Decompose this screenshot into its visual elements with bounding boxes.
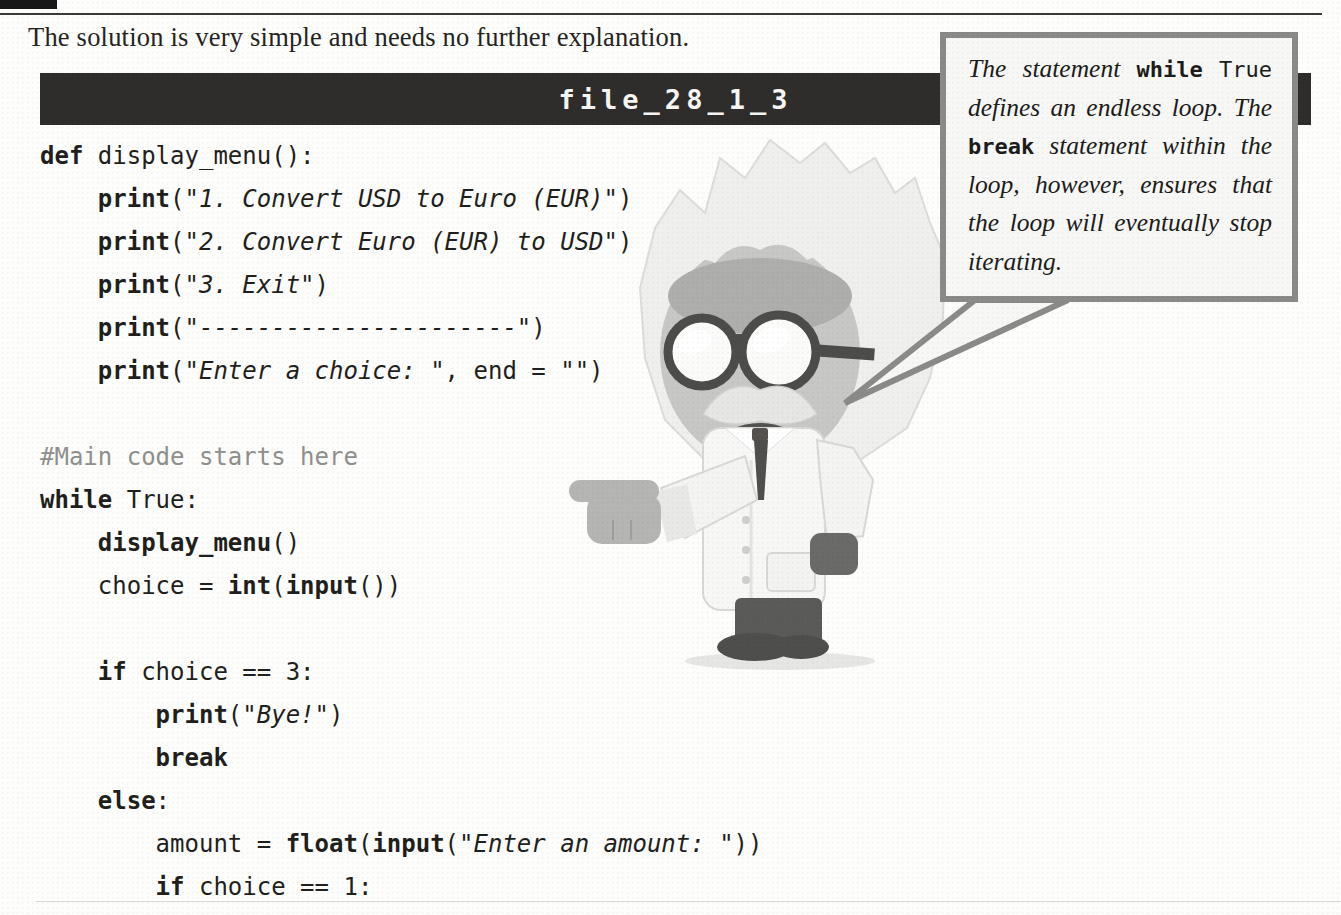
code-segment: :: [156, 787, 170, 815]
code-line: if choice == 1:: [40, 866, 763, 909]
code-segment: choice == 3:: [127, 658, 315, 686]
code-segment: (": [170, 228, 199, 256]
code-segment: input: [286, 572, 358, 600]
code-segment: Bye!: [257, 701, 315, 729]
code-segment: True:: [112, 486, 199, 514]
code-segment: (": [170, 314, 199, 342]
right-hand: [810, 533, 858, 575]
speech-bubble-word: however,: [1035, 170, 1125, 200]
coat-pocket: [767, 553, 815, 591]
code-segment: print: [98, 314, 170, 342]
code-segment: choice == 1:: [185, 873, 373, 901]
code-segment: input: [372, 830, 444, 858]
code-segment: int: [228, 572, 271, 600]
speech-bubble-word: stop: [1229, 208, 1272, 238]
speech-bubble-word: an: [1051, 93, 1077, 123]
speech-bubble-word: defines: [968, 93, 1040, 123]
speech-bubble-word: while: [1137, 57, 1203, 82]
speech-bubble-word: statement: [1049, 131, 1147, 161]
page-corner-mark: [0, 0, 57, 9]
code-segment: while: [40, 486, 112, 514]
speech-bubble-word: loop.: [1172, 93, 1224, 123]
code-segment: [40, 529, 98, 557]
speech-bubble-word: endless: [1086, 93, 1161, 123]
code-segment: #Main code starts here: [40, 443, 358, 471]
speech-bubble-line: ThestatementwhileTrue: [968, 54, 1272, 93]
code-segment: Enter an amount:: [474, 830, 720, 858]
code-segment: display_menu():: [83, 142, 314, 170]
speech-bubble-line: loop,however,ensuresthat: [968, 170, 1272, 209]
code-segment: "): [300, 271, 329, 299]
speech-bubble-tail: [830, 292, 1090, 417]
code-segment: print: [98, 185, 170, 213]
speech-bubble-word: will: [1065, 208, 1103, 238]
code-segment: break: [156, 744, 228, 772]
coat-button: [742, 546, 750, 554]
glasses-left-lens: [668, 318, 736, 386]
code-segment: display_menu: [98, 529, 271, 557]
speech-bubble-word: break: [968, 134, 1034, 159]
code-line: break: [40, 737, 763, 780]
speech-bubble-word: ensures: [1140, 170, 1217, 200]
code-segment: if: [98, 658, 127, 686]
code-segment: (": [170, 271, 199, 299]
code-segment: [40, 787, 98, 815]
speech-bubble-word: the: [1241, 131, 1272, 161]
speech-bubble-word: iterating.: [968, 247, 1062, 277]
speech-bubble-word: True: [1219, 57, 1272, 82]
speech-bubble-word: The: [1234, 93, 1272, 123]
code-segment: (: [271, 572, 285, 600]
code-segment: "): [315, 701, 344, 729]
code-segment: ----------------------: [199, 314, 517, 342]
code-segment: [40, 271, 98, 299]
code-segment: (": [170, 357, 199, 385]
coat-button: [742, 516, 750, 524]
code-segment: print: [98, 228, 170, 256]
book-page: { "page": { "intro": "The solution is ve…: [0, 0, 1341, 915]
code-segment: else: [98, 787, 156, 815]
speech-bubble-line: breakstatementwithinthe: [968, 131, 1272, 170]
speech-bubble-word: loop,: [968, 170, 1020, 200]
code-segment: [40, 228, 98, 256]
speech-bubble-line: iterating.: [968, 247, 1272, 286]
code-segment: 3. Exit: [199, 271, 300, 299]
speech-bubble-word: The: [968, 54, 1006, 84]
code-segment: print: [98, 271, 170, 299]
code-segment: ")): [719, 830, 762, 858]
coat-button: [742, 576, 750, 584]
code-segment: [40, 658, 98, 686]
code-line: print("Bye!"): [40, 694, 763, 737]
speech-bubble-word: within: [1162, 131, 1226, 161]
speech-bubble-word: that: [1232, 170, 1272, 200]
code-segment: Enter a choice:: [199, 357, 430, 385]
glasses-right-lens: [742, 315, 816, 389]
code-segment: (): [271, 529, 300, 557]
code-segment: (": [445, 830, 474, 858]
mascot-tie-knot: [752, 428, 768, 441]
code-segment: (": [228, 701, 257, 729]
code-segment: "): [517, 314, 546, 342]
code-segment: (: [358, 830, 372, 858]
code-listing-title: file_28_1_3: [559, 84, 793, 115]
code-segment: float: [286, 830, 358, 858]
code-segment: print: [98, 357, 170, 385]
speech-bubble-word: statement: [1023, 54, 1121, 84]
speech-bubble: ThestatementwhileTruedefinesanendlessloo…: [940, 32, 1298, 302]
code-segment: if: [156, 873, 185, 901]
code-line: else:: [40, 780, 763, 823]
speech-bubble-line: theloopwilleventuallystop: [968, 208, 1272, 247]
code-segment: 2. Convert Euro (EUR) to USD: [199, 228, 604, 256]
code-segment: [40, 357, 98, 385]
code-segment: 1. Convert USD to Euro (EUR): [199, 185, 604, 213]
bottom-rule: [36, 901, 1341, 902]
top-rule: [0, 13, 1322, 15]
code-segment: print: [156, 701, 228, 729]
code-line: amount = float(input("Enter an amount: "…: [40, 823, 763, 866]
speech-bubble-word: the: [968, 208, 999, 238]
code-segment: amount =: [40, 830, 286, 858]
code-segment: def: [40, 142, 83, 170]
code-segment: (": [170, 185, 199, 213]
pointing-finger: [569, 480, 659, 502]
mascot-boot-right: [773, 635, 829, 659]
speech-bubble-line: definesanendlessloop.The: [968, 93, 1272, 132]
